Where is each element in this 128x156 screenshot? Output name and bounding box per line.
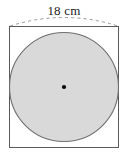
geometry-figure: 18 cm <box>0 0 128 156</box>
figure-canvas <box>0 0 128 156</box>
dimension-label: 18 cm <box>0 2 128 19</box>
circle-center-point <box>62 85 66 89</box>
